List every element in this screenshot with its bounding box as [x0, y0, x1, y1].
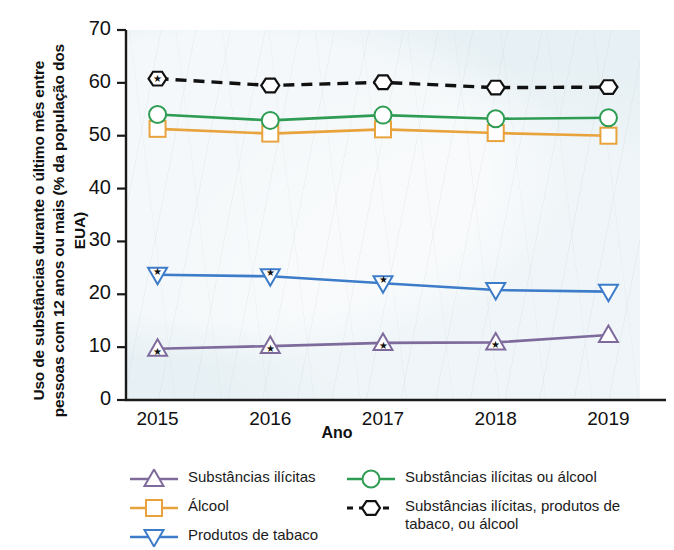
data-point-marker	[262, 112, 279, 129]
legend-item[interactable]: Substâncias ilícitas ou álcool	[345, 468, 665, 488]
data-point-marker	[600, 109, 617, 126]
y-tick-label: 10	[65, 334, 111, 357]
data-point-marker	[363, 471, 380, 488]
triangle-down-icon	[128, 527, 180, 547]
legend-key	[345, 469, 401, 489]
square-icon	[128, 498, 180, 518]
y-tick-label: 0	[65, 387, 111, 410]
triangle-up-icon	[128, 469, 180, 489]
data-point-marker	[261, 79, 279, 93]
chart-legend: Substâncias ilícitasÁlcoolProdutos de ta…	[0, 466, 674, 550]
data-point-marker	[599, 285, 618, 302]
marker-star-artifact: ★	[153, 73, 162, 84]
data-point-marker	[375, 107, 392, 124]
marker-star-artifact: ★	[153, 266, 162, 277]
data-point-marker	[146, 500, 162, 516]
series-hexagon	[149, 72, 618, 95]
marker-star-artifact: ★	[491, 339, 500, 350]
y-tick-label: 60	[65, 70, 111, 93]
legend-key	[128, 498, 184, 518]
chart-figure: Uso de substâncias durante o último mês …	[0, 0, 674, 550]
legend-label: Álcool	[184, 497, 229, 515]
legend-key	[128, 527, 184, 547]
data-point-marker	[362, 501, 380, 515]
legend-label: Produtos de tabaco	[184, 526, 318, 544]
marker-star-artifact: ★	[379, 340, 388, 351]
legend-key	[128, 469, 184, 489]
legend-column-right: Substâncias ilícitas ou álcoolSubstância…	[345, 468, 665, 543]
legend-item[interactable]: Substâncias ilícitas, produtos de tabaco…	[345, 497, 665, 534]
legend-item[interactable]: Álcool	[128, 497, 348, 517]
data-point-marker	[374, 75, 392, 89]
data-point-marker	[149, 106, 166, 123]
circle-icon	[345, 469, 397, 489]
data-point-marker	[599, 325, 618, 342]
legend-label: Substâncias ilícitas, produtos de tabaco…	[401, 497, 665, 534]
y-tick-label: 20	[65, 281, 111, 304]
marker-star-artifact: ★	[266, 267, 275, 278]
data-point-marker	[487, 81, 505, 95]
data-point-marker	[600, 128, 616, 144]
legend-key	[345, 498, 401, 518]
y-tick-label: 50	[65, 123, 111, 146]
data-point-marker	[599, 80, 617, 94]
marker-star-artifact: ★	[266, 343, 275, 354]
data-point-marker	[487, 110, 504, 127]
x-axis-title: Ano	[0, 424, 674, 442]
y-tick-label: 40	[65, 176, 111, 199]
legend-item[interactable]: Produtos de tabaco	[128, 526, 348, 546]
legend-label: Substâncias ilícitas	[184, 468, 316, 486]
legend-label: Substâncias ilícitas ou álcool	[401, 468, 597, 486]
plot-wrapper: ★★★★★★★★ 0102030405060702015201620172018…	[0, 0, 674, 460]
legend-item[interactable]: Substâncias ilícitas	[128, 468, 348, 488]
legend-column-left: Substâncias ilícitasÁlcoolProdutos de ta…	[128, 468, 348, 550]
y-tick-label: 30	[65, 228, 111, 251]
y-tick-label: 70	[65, 17, 111, 40]
hexagon-icon	[345, 498, 397, 518]
marker-star-artifact: ★	[379, 274, 388, 285]
marker-star-artifact: ★	[153, 346, 162, 357]
